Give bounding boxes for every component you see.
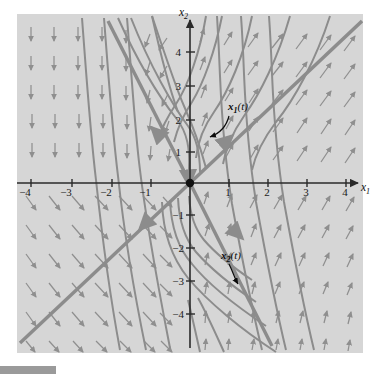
y-tick--1: −1: [172, 209, 184, 221]
x-tick--1: −1: [139, 186, 151, 198]
x-tick--3: −3: [60, 186, 72, 198]
trajectory-left-d: [152, 16, 178, 112]
x-tick--2: −2: [100, 186, 112, 198]
x-tick-4: 4: [342, 186, 348, 198]
x1-label-text: x1(t): [227, 100, 248, 115]
x-axis-label: x1: [360, 181, 370, 196]
figure-container: −4 −3 −2 −1 1 2 3 4 4 3 2 1 −1 −2 −3 −4 …: [0, 0, 380, 378]
x1-pointer-arrow: [210, 116, 229, 137]
trajectory-q4-e: [198, 298, 224, 352]
scan-artifact-bar: [0, 366, 56, 374]
y-tick--3: −3: [172, 275, 184, 287]
x-tick-3: 3: [303, 186, 309, 198]
y-tick-1: 1: [176, 146, 182, 158]
y-tick-2: 2: [176, 114, 182, 126]
trajectory-left-a: [82, 18, 120, 350]
separatrix-arrow-out-upper-left: [152, 128, 160, 136]
y-tick--4: −4: [172, 308, 184, 320]
y-tick--2: −2: [172, 242, 184, 254]
y-tick-3: 3: [176, 80, 182, 92]
y-tick-4: 4: [176, 46, 182, 58]
x-tick-1: 1: [225, 186, 231, 198]
x-tick-2: 2: [264, 186, 270, 198]
trajectory-q1-e: [252, 16, 330, 170]
y-axis-label: x2: [178, 6, 188, 21]
phase-portrait-svg: −4 −3 −2 −1 1 2 3 4 4 3 2 1 −1 −2 −3 −4 …: [0, 0, 380, 378]
x-tick--4: −4: [19, 186, 31, 198]
trajectory-left-b: [104, 18, 146, 350]
trajectory-q4-a: [189, 196, 252, 280]
trajectory-q1-b: [174, 16, 222, 142]
saddle-point-marker: [186, 179, 194, 187]
